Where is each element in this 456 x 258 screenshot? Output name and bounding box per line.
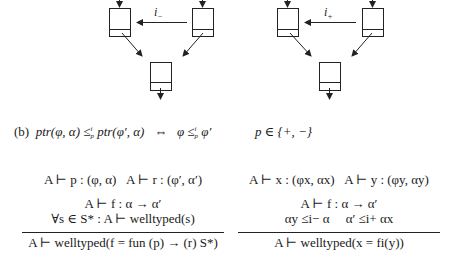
cell-box (320, 63, 341, 91)
premise-2: A ⊢ f : α → α′ (238, 196, 440, 212)
cell-box (278, 9, 299, 37)
equation-b: (b) ptr(φ, α) ≤ip ptr(φ′, α) ⇔ φ ≤ip φ′ (14, 124, 211, 140)
pointer-subtyping-diagrams (0, 0, 456, 110)
cell-box (193, 9, 214, 37)
cell-box (151, 63, 172, 91)
premise-3: ∀s ∈ S* : A ⊢ welltyped(s) (22, 211, 224, 227)
conclusion: A ⊢ welltyped(f = fun (p) → (r) S*) (22, 235, 224, 251)
equation-condition: p ∈ {+, −} (255, 124, 312, 140)
cell-box (110, 9, 131, 37)
edge-label-plus: i+ (324, 5, 333, 21)
inference-line (22, 232, 224, 233)
edge-arrow-icon (290, 33, 311, 56)
premise-1: A ⊢ p : (φ, α) A ⊢ r : (φ′, α′) (22, 172, 224, 188)
inference-line (238, 232, 440, 233)
edge-label-minus: i− (154, 5, 163, 21)
premise-3: αy ≤i− α α′ ≤i+ αx (238, 211, 440, 227)
premise-2: A ⊢ f : α → α′ (22, 196, 224, 212)
conclusion: A ⊢ welltyped(x = fi(y)) (238, 235, 440, 251)
premise-1: A ⊢ x : (φx, αx) A ⊢ y : (φy, αy) (238, 172, 440, 188)
cell-box (363, 9, 384, 37)
equation-label: (b) (14, 124, 29, 139)
edge-arrow-icon (122, 33, 142, 56)
